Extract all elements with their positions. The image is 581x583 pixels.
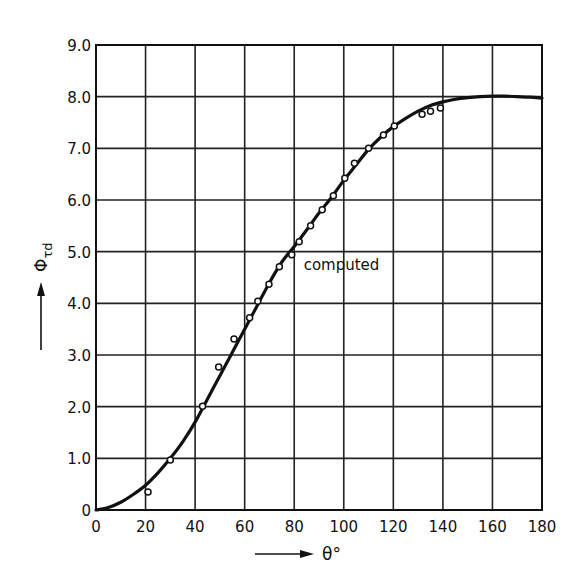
- measured-point: [276, 264, 282, 270]
- measured-point: [296, 239, 302, 245]
- x-axis-label: θ°: [322, 544, 341, 564]
- measured-point: [428, 108, 434, 114]
- y-tick-label: 5.0: [67, 244, 91, 262]
- measured-point: [380, 132, 386, 138]
- measured-point: [231, 336, 237, 342]
- x-tick-label: 80: [285, 518, 304, 536]
- x-tick-label: 20: [136, 518, 155, 536]
- measured-point: [167, 457, 173, 463]
- grid-lines: [96, 45, 542, 510]
- measured-point: [437, 105, 443, 111]
- measured-point: [351, 160, 357, 166]
- chart-canvas: 020406080100120140160180 01.02.03.04.05.…: [0, 0, 581, 583]
- y-tick-label: 9.0: [67, 37, 91, 55]
- x-tick-label: 100: [329, 518, 358, 536]
- x-axis-arrow-icon: [300, 550, 314, 558]
- y-tick-label: 0: [81, 502, 91, 520]
- measured-point: [366, 145, 372, 151]
- y-tick-label: 4.0: [67, 295, 91, 313]
- measured-point: [308, 223, 314, 229]
- y-tick-label: 3.0: [67, 347, 91, 365]
- x-tick-label: 40: [186, 518, 205, 536]
- measured-point: [255, 298, 261, 304]
- x-tick-label: 180: [528, 518, 557, 536]
- y-tick-label: 6.0: [67, 192, 91, 210]
- y-axis-ticks: 01.02.03.04.05.06.07.08.09.0: [67, 37, 91, 520]
- measured-point: [289, 252, 295, 258]
- y-axis-arrow-icon: [37, 282, 45, 296]
- measured-point: [391, 123, 397, 129]
- y-tick-label: 8.0: [67, 89, 91, 107]
- y-axis-label-main: Φ: [31, 259, 51, 272]
- x-axis-ticks: 020406080100120140160180: [91, 518, 556, 536]
- y-tick-label: 1.0: [67, 450, 91, 468]
- x-axis-label-group: θ°: [255, 544, 341, 564]
- measured-point: [419, 111, 425, 117]
- x-tick-label: 60: [235, 518, 254, 536]
- y-axis-label-group: Φτd: [31, 243, 55, 350]
- measured-point: [247, 315, 253, 321]
- plot-frame: [96, 45, 542, 510]
- y-axis-label-sub: τd: [40, 243, 55, 259]
- x-tick-label: 120: [379, 518, 408, 536]
- y-axis-label: Φτd: [31, 243, 55, 272]
- measured-point: [330, 193, 336, 199]
- computed-annotation: computed: [304, 256, 380, 274]
- measured-point: [145, 489, 151, 495]
- x-tick-label: 140: [429, 518, 458, 536]
- measured-point: [216, 364, 222, 370]
- x-tick-label: 160: [478, 518, 507, 536]
- measured-point: [200, 403, 206, 409]
- y-tick-label: 2.0: [67, 399, 91, 417]
- measured-point: [342, 175, 348, 181]
- measured-point: [319, 207, 325, 213]
- y-tick-label: 7.0: [67, 140, 91, 158]
- x-tick-label: 0: [91, 518, 101, 536]
- measured-point: [266, 281, 272, 287]
